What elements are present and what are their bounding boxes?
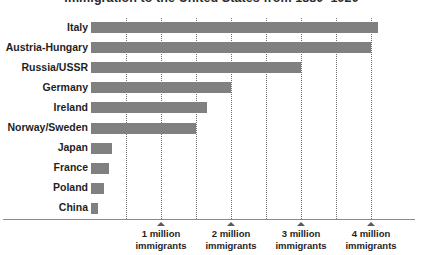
bar[interactable]: [91, 123, 196, 134]
bar-row[interactable]: [91, 139, 423, 159]
axis-tick-marker: [157, 222, 165, 226]
bar[interactable]: [91, 42, 371, 53]
bar-row[interactable]: [91, 58, 423, 78]
category-label: Italy: [0, 21, 88, 33]
category-label: Japan: [0, 141, 88, 153]
value-axis-line: [3, 219, 415, 220]
plot-area: [91, 18, 423, 219]
bar[interactable]: [91, 143, 112, 154]
bar-row[interactable]: [91, 199, 423, 219]
axis-tick-marker: [227, 222, 235, 226]
axis-tick-marker: [297, 222, 305, 226]
category-label: Germany: [0, 81, 88, 93]
axis-tick-marker: [367, 222, 375, 226]
chart-title: Immigration to the United States from 18…: [0, 0, 423, 5]
axis-tick-label-unit: immigrants: [328, 240, 414, 252]
bar-row[interactable]: [91, 18, 423, 38]
category-label: Austria-Hungary: [0, 41, 88, 53]
bar-row[interactable]: [91, 159, 423, 179]
category-label: Poland: [0, 181, 88, 193]
bar-row[interactable]: [91, 38, 423, 58]
category-label: Norway/Sweden: [0, 121, 88, 133]
bar-row[interactable]: [91, 78, 423, 98]
bar[interactable]: [91, 22, 378, 33]
bar[interactable]: [91, 62, 301, 73]
bar-row[interactable]: [91, 98, 423, 118]
bar-row[interactable]: [91, 179, 423, 199]
category-label: Ireland: [0, 101, 88, 113]
bar[interactable]: [91, 203, 98, 214]
bar[interactable]: [91, 163, 109, 174]
bar[interactable]: [91, 102, 207, 113]
category-label: Russia/USSR: [0, 61, 88, 73]
category-label: China: [0, 201, 88, 213]
axis-tick-label-value: 4 million: [328, 228, 414, 240]
bar[interactable]: [91, 82, 231, 93]
bar-chart: Immigration to the United States from 18…: [0, 0, 423, 255]
bar-row[interactable]: [91, 119, 423, 139]
bar[interactable]: [91, 183, 104, 194]
axis-tick-label: 4 millionimmigrants: [328, 228, 414, 251]
category-axis: ItalyAustria-HungaryRussia/USSRGermanyIr…: [0, 18, 88, 219]
category-label: France: [0, 161, 88, 173]
